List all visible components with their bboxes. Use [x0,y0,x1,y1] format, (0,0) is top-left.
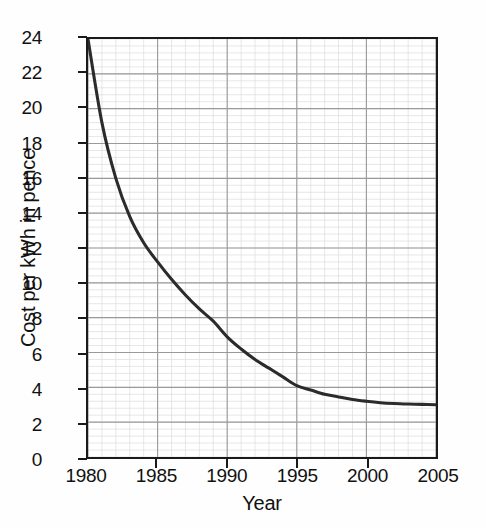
x-tick-label: 2000 [333,466,403,485]
x-tick-label: 1985 [121,466,191,485]
data-series-cost-per-kwh [88,39,436,457]
y-tick-label: 6 [0,344,42,363]
chart-figure: Cost per kWh in pence 024681012141618202… [0,0,486,527]
x-tick-label: 1995 [262,466,332,485]
y-tick-label: 2 [0,414,42,433]
y-tick-label: 14 [0,203,42,222]
y-tick-label: 24 [0,28,42,47]
y-tick-label: 10 [0,274,42,293]
x-tick-mark [296,459,298,468]
y-tick-label: 22 [0,63,42,82]
y-tick-label: 0 [0,450,42,469]
x-tick-label: 1980 [51,466,121,485]
x-tick-mark [155,459,157,468]
x-axis-title: Year [86,492,438,515]
x-tick-mark [367,459,369,468]
x-tick-label: 1990 [192,466,262,485]
x-tick-label: 2005 [403,466,473,485]
y-tick-label: 20 [0,98,42,117]
y-tick-label: 18 [0,133,42,152]
y-tick-label: 16 [0,168,42,187]
y-tick-label: 12 [0,239,42,258]
plot-area [86,37,438,459]
series-line [88,39,436,405]
x-tick-mark [226,459,228,468]
y-tick-label: 8 [0,309,42,328]
y-tick-label: 4 [0,379,42,398]
